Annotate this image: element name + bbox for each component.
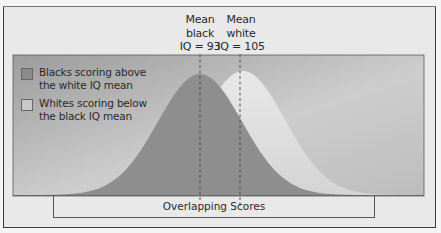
- legend-line: Whites scoring below: [39, 97, 147, 110]
- legend-swatch-dark: [21, 68, 33, 80]
- mean-white-line2: white: [216, 27, 266, 41]
- legend-item-blacks-above: Blacks scoring above the white IQ mean: [21, 66, 146, 92]
- mean-white-label: Mean white IQ = 105: [216, 13, 266, 54]
- overlapping-scores-label: Overlapping Scores: [54, 200, 374, 212]
- mean-white-line3: IQ = 105: [216, 40, 266, 54]
- legend-text: Whites scoring below the black IQ mean: [39, 97, 147, 123]
- legend-line: Blacks scoring above: [39, 66, 146, 79]
- overlapping-scores-bracket: Overlapping Scores: [53, 195, 375, 218]
- legend-item-whites-below: Whites scoring below the black IQ mean: [21, 97, 147, 123]
- legend-swatch-light: [21, 99, 33, 111]
- legend-line: the black IQ mean: [39, 110, 147, 123]
- mean-white-line1: Mean: [216, 13, 266, 27]
- legend-text: Blacks scoring above the white IQ mean: [39, 66, 146, 92]
- legend-line: the white IQ mean: [39, 79, 146, 92]
